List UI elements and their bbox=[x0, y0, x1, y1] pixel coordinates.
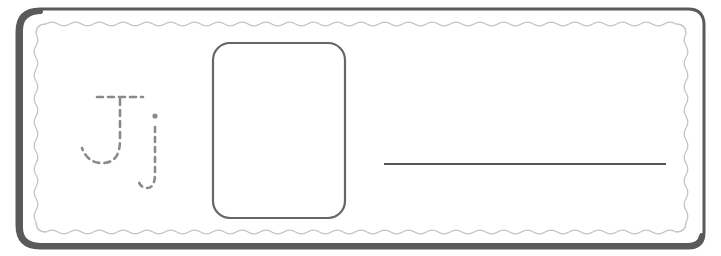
drawing-box[interactable] bbox=[213, 43, 345, 218]
wavy-border bbox=[34, 22, 688, 234]
j-dot bbox=[152, 113, 157, 118]
outer-frame bbox=[17, 9, 704, 248]
uppercase-j-tracing bbox=[82, 97, 143, 163]
lowercase-j-tracing bbox=[138, 113, 158, 188]
